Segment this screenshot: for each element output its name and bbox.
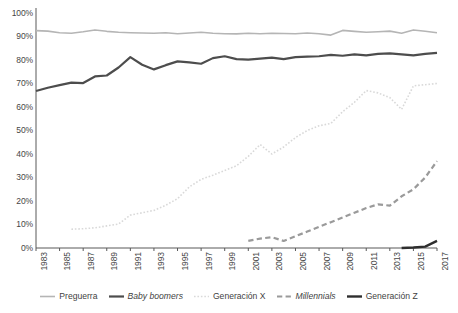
series-line-generacion-z xyxy=(402,241,437,248)
legend-item-preguerra[interactable]: Preguerra xyxy=(40,291,97,301)
plot-area xyxy=(0,0,458,265)
x-axis: 1983198519871989199119931995199719992001… xyxy=(0,250,458,286)
legend-item-generacion-x[interactable]: Generación X xyxy=(194,291,266,301)
legend-label: Millennials xyxy=(296,291,336,301)
series-line-preguerra xyxy=(36,30,437,35)
legend-item-baby-boomers[interactable]: Baby boomers xyxy=(109,291,183,301)
x-axis-tick-label: 1999 xyxy=(228,252,237,271)
legend-item-millennials[interactable]: Millennials xyxy=(277,291,336,301)
y-axis-tick-label: 70% xyxy=(3,79,33,88)
x-axis-tick-label: 2017 xyxy=(441,252,450,271)
x-axis-tick-label: 1991 xyxy=(134,252,143,271)
y-axis-tick-label: 40% xyxy=(3,150,33,159)
x-axis-tick-label: 1989 xyxy=(110,252,119,271)
x-axis-tick-label: 2011 xyxy=(370,252,379,270)
plot-svg xyxy=(0,0,458,265)
legend-swatch-icon xyxy=(194,293,209,300)
x-axis-tick-label: 1987 xyxy=(87,252,96,271)
x-axis-tick-label: 2007 xyxy=(323,252,332,271)
line-chart: 0%10%20%30%40%50%60%70%80%90%100% 198319… xyxy=(0,0,458,313)
legend-label: Generación X xyxy=(213,291,266,301)
y-axis: 0%10%20%30%40%50%60%70%80%90%100% xyxy=(0,0,33,265)
series-line-baby-boomers xyxy=(36,53,437,91)
x-axis-tick-label: 2003 xyxy=(275,252,284,271)
x-axis-tick-label: 2009 xyxy=(346,252,355,271)
legend-label: Baby boomers xyxy=(128,291,183,301)
y-axis-tick-label: 80% xyxy=(3,56,33,65)
x-axis-tick-label: 1997 xyxy=(205,252,214,271)
legend-label: Preguerra xyxy=(59,291,97,301)
y-axis-tick-label: 10% xyxy=(3,220,33,229)
y-axis-tick-label: 60% xyxy=(3,103,33,112)
series-line-millennials xyxy=(248,161,437,241)
y-axis-tick-label: 20% xyxy=(3,197,33,206)
x-axis-tick-label: 1995 xyxy=(181,252,190,271)
y-axis-tick-label: 90% xyxy=(3,32,33,41)
legend-swatch-icon xyxy=(277,293,292,300)
x-axis-tick-label: 2005 xyxy=(299,252,308,271)
legend-label: Generación Z xyxy=(366,291,418,301)
series-line-generacion-x xyxy=(71,84,437,230)
legend-swatch-icon xyxy=(40,293,55,300)
legend-swatch-icon xyxy=(347,293,362,300)
legend-item-generacion-z[interactable]: Generación Z xyxy=(347,291,418,301)
x-axis-tick-label: 1993 xyxy=(157,252,166,271)
legend-swatch-icon xyxy=(109,293,124,300)
x-axis-tick-label: 2015 xyxy=(417,252,426,271)
x-axis-tick-label: 2013 xyxy=(393,252,402,271)
chart-legend: PreguerraBaby boomersGeneración XMillenn… xyxy=(0,288,458,304)
y-axis-tick-label: 50% xyxy=(3,126,33,135)
y-axis-tick-label: 30% xyxy=(3,173,33,182)
x-axis-tick-label: 1983 xyxy=(40,252,49,271)
x-axis-tick-label: 1985 xyxy=(63,252,72,271)
x-axis-tick-label: 2001 xyxy=(252,252,261,271)
y-axis-tick-label: 100% xyxy=(3,9,33,18)
